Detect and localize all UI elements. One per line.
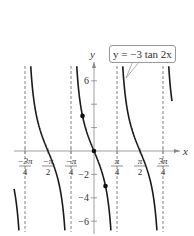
x-tick-denominator: 4 <box>161 167 166 177</box>
x-tick-denominator: 4 <box>115 167 120 177</box>
callout-pointer <box>126 61 140 78</box>
key-point <box>103 184 108 189</box>
x-tick-denominator: 2 <box>46 167 51 177</box>
x-tick-numerator: π <box>138 156 143 166</box>
x-axis-arrow-icon <box>174 149 180 153</box>
curve-series <box>14 66 172 230</box>
tangent-curve-branch <box>169 66 172 101</box>
x-tick-numerator: −π <box>66 156 77 166</box>
y-tick-label: −6 <box>78 216 89 227</box>
x-tick-numerator: −3π <box>17 156 33 166</box>
x-tick-denominator: 4 <box>69 167 74 177</box>
x-tick-numerator: 3π <box>157 156 168 166</box>
tangent-curve-branch <box>14 189 19 230</box>
y-tick-label: −4 <box>78 192 89 203</box>
x-tick-denominator: 2 <box>138 167 143 177</box>
y-axis-arrow-icon <box>92 62 96 68</box>
key-point <box>92 149 97 154</box>
x-axis-label: x <box>182 145 188 157</box>
x-tick-numerator: −π <box>43 156 54 166</box>
y-axis-label: y <box>89 48 95 60</box>
equation-callout: y = −3 tan 2x <box>109 45 176 63</box>
x-tick-denominator: 4 <box>23 167 28 177</box>
y-tick-label: −2 <box>78 169 89 180</box>
x-tick-numerator: π <box>115 156 120 166</box>
key-point <box>80 114 85 119</box>
tangent-graph: −3π4−π2−π4π4π23π46−2−4−6 y x <box>0 0 194 236</box>
y-tick-label: 6 <box>84 75 89 86</box>
